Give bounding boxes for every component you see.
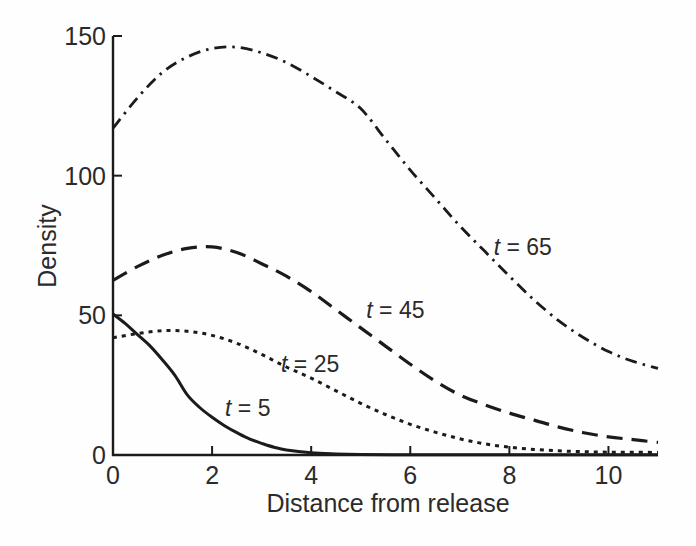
curve-t-5 [113,314,658,455]
density-vs-distance-chart: Density Distance from release 0246810050… [0,0,696,546]
x-tick-label: 10 [595,463,623,488]
x-tick-label: 2 [205,463,219,488]
x-axis-title: Distance from release [266,489,509,518]
y-tick-label: 50 [78,303,106,328]
y-tick-label: 0 [92,443,106,468]
x-tick-label: 4 [304,463,318,488]
curve-t-25 [113,331,658,453]
x-tick-label: 0 [106,463,120,488]
curve-label-t-5: t = 5 [225,396,270,419]
axes [113,36,658,455]
y-axis-title: Density [33,204,62,287]
curve-label-t-65: t = 65 [494,235,552,258]
curve-label-value: = 45 [373,296,425,322]
y-tick-label: 150 [64,24,106,49]
curve-label-value: = 25 [287,351,339,377]
x-tick-label: 8 [502,463,516,488]
curve-label-t-45: t = 45 [366,298,424,321]
curve-label-value: = 5 [231,394,270,420]
x-tick-label: 6 [403,463,417,488]
curve-label-value: = 65 [500,233,552,259]
y-tick-label: 100 [64,163,106,188]
curve-label-t-25: t = 25 [281,353,339,376]
